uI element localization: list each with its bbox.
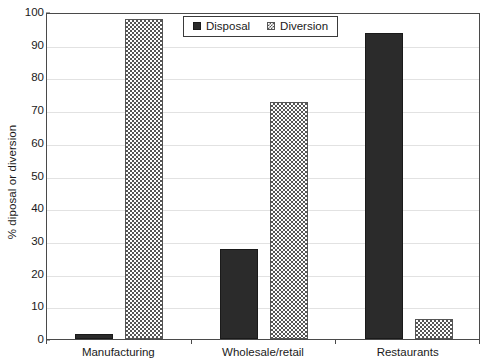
plot-area [46, 13, 480, 340]
bar-group [75, 14, 163, 339]
bar-group [365, 14, 453, 339]
legend-entry-diversion: Diversion [267, 19, 328, 33]
bar-diversion-wholesale-retail [270, 102, 308, 339]
y-axis-tick-label: 100 [18, 7, 44, 19]
y-axis-tick-label: 80 [18, 73, 44, 85]
bars-layer [47, 14, 479, 339]
bar-disposal-restaurants [365, 33, 403, 339]
x-axis-category-label: Restaurants [377, 346, 439, 360]
x-axis-category-labels: ManufacturingWholesale/retailRestaurants [46, 346, 480, 364]
x-axis-category-label: Wholesale/retail [222, 346, 304, 360]
x-axis-tick-mark [46, 340, 47, 344]
bar-group [220, 14, 308, 339]
y-axis-tick-label: 30 [18, 236, 44, 248]
y-axis-tick-label: 40 [18, 203, 44, 215]
x-axis-category-label: Manufacturing [82, 346, 155, 360]
bar-diversion-restaurants [415, 319, 453, 339]
legend-swatch-diversion-icon [267, 22, 275, 30]
y-axis-tick-labels: 0102030405060708090100 [18, 13, 44, 340]
x-axis-tick-mark [335, 340, 336, 344]
y-axis-tick-label: 10 [18, 302, 44, 314]
x-axis-tick-mark [191, 340, 192, 344]
x-axis-tick-marks [46, 340, 480, 345]
y-axis-title-text: % diposal or diversion [6, 125, 18, 240]
bar-chart: % diposal or diversion 01020304050607080… [0, 0, 499, 364]
y-axis-tick-label: 20 [18, 269, 44, 281]
y-axis-tick-label: 50 [18, 171, 44, 183]
chart-legend: DisposalDiversion [183, 16, 338, 37]
x-axis-tick-mark [479, 340, 480, 344]
y-axis-tick-label: 90 [18, 40, 44, 52]
bar-diversion-manufacturing [125, 19, 163, 339]
y-axis-tick-label: 0 [18, 334, 44, 346]
legend-label: Diversion [280, 19, 328, 33]
legend-label: Disposal [206, 19, 250, 33]
legend-entry-disposal: Disposal [193, 19, 250, 33]
y-axis-tick-label: 70 [18, 105, 44, 117]
y-axis-tick-label: 60 [18, 138, 44, 150]
bar-disposal-manufacturing [75, 334, 113, 339]
legend-swatch-disposal-icon [193, 22, 201, 30]
bar-disposal-wholesale-retail [220, 249, 258, 339]
